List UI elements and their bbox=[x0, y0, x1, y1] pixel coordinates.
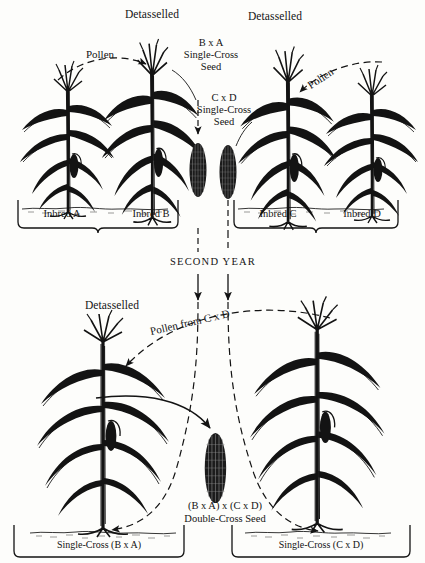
plot-label-single-cross-cd: Single-Cross (C x D) bbox=[279, 540, 364, 551]
inbred-b-label: Inbred B bbox=[132, 208, 169, 219]
soil-line-plot-right bbox=[245, 531, 391, 538]
corn-plant-inbred-a bbox=[20, 61, 114, 219]
second-year-label: SECOND YEAR bbox=[170, 256, 256, 267]
seed-leader-line-cd bbox=[236, 122, 252, 146]
corn-ear-ba-single-cross bbox=[190, 143, 207, 197]
corn-plant-single-cross-cd bbox=[250, 296, 385, 532]
diagram-artwork bbox=[0, 0, 425, 563]
detasselled-label-single-cross-ba: Detasselled bbox=[85, 299, 139, 311]
first-year-left-block bbox=[18, 39, 207, 233]
corn-plant-inbred-b bbox=[102, 39, 201, 225]
corn-ear-cd-single-cross bbox=[220, 145, 237, 199]
soil-line-plot-left bbox=[30, 531, 176, 538]
inbred-a-label: Inbred A bbox=[43, 208, 80, 219]
corn-plant-inbred-d bbox=[324, 65, 418, 223]
seed-label-ba-line3: Seed bbox=[201, 61, 221, 72]
seed-label-ba-line2: Single-Cross bbox=[184, 49, 238, 60]
corn-ear-double-cross bbox=[205, 433, 226, 503]
seed-label-cd-line1: C x D bbox=[211, 92, 236, 103]
detasselled-label-inbred-b: Detasselled bbox=[125, 8, 179, 20]
double-cross-seed-label-line1: (B x A) x (C x D) bbox=[188, 500, 262, 511]
detasselled-label-inbred-c: Detasselled bbox=[248, 10, 302, 22]
inbred-d-label: Inbred D bbox=[343, 208, 381, 219]
double-cross-hybrid-corn-diagram: Detasselled Pollen B x A Single-Cross Se… bbox=[0, 0, 425, 563]
inbred-c-label: Inbred C bbox=[259, 208, 296, 219]
seed-label-cd-line2: Single-Cross bbox=[197, 104, 251, 115]
seed-label-ba-line1: B x A bbox=[199, 37, 224, 48]
corn-plant-single-cross-ba bbox=[37, 310, 169, 537]
seed-label-cd-line3: Seed bbox=[214, 116, 234, 127]
double-cross-seed-label-line2: Double-Cross Seed bbox=[184, 513, 265, 524]
plot-label-single-cross-ba: Single-Cross (B x A) bbox=[57, 540, 141, 551]
pollen-label-left: Pollen bbox=[86, 49, 114, 61]
